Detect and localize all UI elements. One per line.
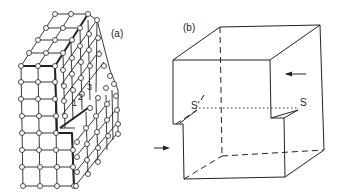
atoms — [19, 12, 121, 189]
shear-arrow-left — [154, 146, 170, 151]
diagram-canvas: (a) 1 2 3 — [0, 0, 341, 193]
shear-arrow-right — [285, 72, 306, 77]
panel-a-lattice — [19, 12, 121, 189]
step-label-1: 1 — [72, 98, 77, 108]
step-label-3: 3 — [87, 82, 92, 92]
panel-b-cube — [154, 25, 324, 179]
panel-b-label: (b) — [183, 22, 195, 33]
step-label-2: 2 — [78, 92, 83, 102]
point-s: S — [300, 97, 307, 108]
panel-a-label: (a) — [111, 28, 123, 39]
point-s-prime: S' — [191, 100, 200, 111]
